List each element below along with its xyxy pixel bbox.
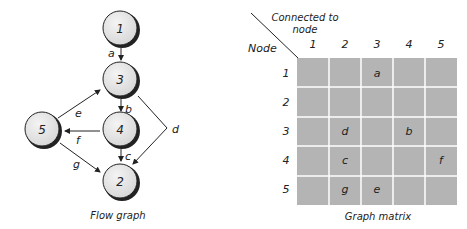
matrix-cell-5-3: e (374, 183, 381, 196)
matrix-column-header-line2: node (293, 24, 318, 35)
matrix-row-header: Node (248, 42, 277, 55)
matrix-cell-5-2: g (342, 183, 349, 196)
svg-text:3: 3 (116, 73, 124, 87)
edge-label-c: c (125, 150, 131, 163)
diagram-canvas: a b c d e f g 1 3 4 5 (0, 0, 467, 229)
node-3: 3 (103, 62, 140, 99)
matrix-col-label: 3 (374, 38, 381, 51)
matrix-cell-4-2: c (342, 154, 348, 167)
matrix-cell-3-4: b (406, 125, 413, 138)
matrix-row-label: 3 (283, 125, 290, 138)
matrix-col-label: 1 (310, 38, 317, 51)
matrix-row-label: 2 (283, 96, 290, 109)
matrix-col-label: 4 (406, 38, 413, 51)
graph-matrix-caption: Graph matrix (345, 211, 412, 222)
matrix-row-label: 4 (283, 154, 290, 167)
node-1: 1 (103, 11, 140, 48)
edge-label-e: e (75, 107, 82, 120)
flow-graph-nodes: 1 3 4 5 2 (25, 11, 140, 201)
svg-text:2: 2 (116, 175, 124, 189)
svg-text:4: 4 (116, 123, 124, 137)
edge-label-d: d (172, 123, 180, 136)
matrix-column-labels: 1 2 3 4 5 (310, 38, 445, 51)
flow-graph-caption: Flow graph (90, 210, 145, 221)
matrix-column-header-line1: Connected to (271, 12, 338, 23)
matrix-cell-1-3: a (374, 67, 381, 80)
node-5: 5 (25, 112, 62, 149)
matrix-cell-3-2: d (342, 125, 350, 138)
matrix-row-labels: 1 2 3 4 5 (283, 67, 290, 196)
svg-text:1: 1 (116, 22, 124, 36)
edge-label-f: f (76, 134, 82, 147)
matrix-col-label: 2 (342, 38, 349, 51)
node-4: 4 (103, 112, 140, 149)
matrix-row-label: 5 (283, 183, 290, 196)
matrix-row-label: 1 (283, 67, 290, 80)
edge-label-a: a (108, 47, 115, 60)
svg-text:5: 5 (38, 123, 46, 137)
edge-g (60, 143, 100, 172)
matrix-col-label: 5 (438, 38, 445, 51)
edge-label-g: g (73, 158, 80, 171)
node-2: 2 (103, 164, 140, 201)
